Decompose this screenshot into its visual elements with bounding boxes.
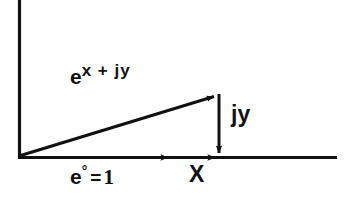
label-resultant-base: e xyxy=(70,65,82,88)
label-unit-magnitude: e°=1 xyxy=(70,164,114,188)
label-imaginary-component: jy xyxy=(231,103,250,126)
label-resultant-vector: ex + jy xyxy=(70,62,131,87)
label-unit-value: 1 xyxy=(103,165,114,189)
label-unit-base: e xyxy=(70,165,82,188)
diagram-canvas xyxy=(0,0,358,217)
label-real-component: X xyxy=(189,163,204,186)
vector-diagram-figure: ex + jy e°=1 jy X xyxy=(0,0,358,217)
resultant-vector xyxy=(19,97,214,157)
label-resultant-superscript: x + jy xyxy=(82,61,131,80)
label-unit-equals: = xyxy=(87,167,103,188)
